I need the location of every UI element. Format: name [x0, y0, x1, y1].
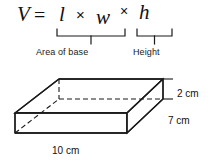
rectangular-prism-diagram: [0, 58, 222, 167]
dimension-label-width: 10 cm: [52, 145, 79, 156]
brace-height: [137, 29, 172, 36]
brace-graphics: [0, 0, 222, 62]
brace-base: [57, 29, 125, 36]
brace-label-area-of-base: Area of base: [36, 47, 88, 57]
brace-label-height: Height: [133, 47, 160, 57]
prism-front-face: [15, 113, 127, 133]
volume-formula-figure: V = l × w × h Area of base Height: [0, 0, 222, 167]
volume-formula: V = l × w × h Area of base Height: [0, 0, 222, 62]
dimension-label-height: 2 cm: [177, 88, 199, 99]
dimension-label-depth: 7 cm: [168, 115, 190, 126]
